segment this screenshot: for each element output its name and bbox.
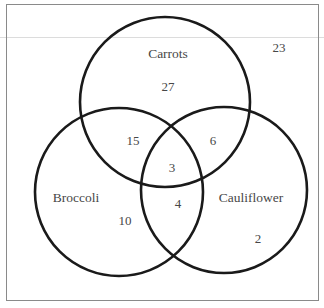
region-carrots-only: 27 [162, 79, 176, 94]
cauliflower-label: Cauliflower [219, 190, 284, 205]
carrots-label: Carrots [148, 46, 188, 61]
region-carrots-cauliflower: 6 [210, 133, 217, 148]
venn-diagram: Carrots Broccoli Cauliflower 27 10 2 15 … [0, 0, 324, 308]
broccoli-label: Broccoli [53, 190, 100, 205]
region-cauliflower-only: 2 [255, 231, 262, 246]
region-carrots-broccoli: 15 [127, 133, 140, 148]
region-none: 23 [273, 40, 286, 55]
region-broccoli-cauliflower: 4 [175, 196, 182, 211]
carrots-circle [80, 17, 250, 187]
region-all-three: 3 [169, 160, 176, 175]
region-broccoli-only: 10 [119, 213, 132, 228]
